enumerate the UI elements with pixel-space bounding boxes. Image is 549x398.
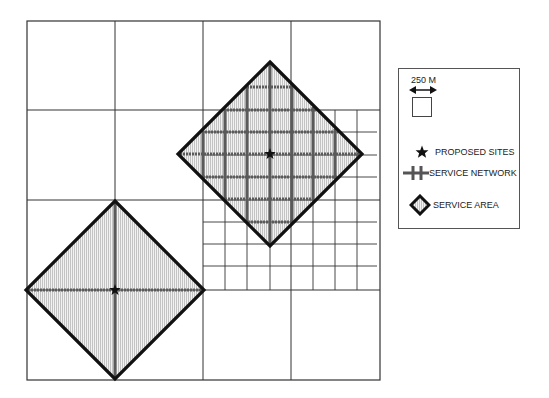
scale-label: 250 M [411,75,436,85]
scale-square [412,97,432,117]
legend-label: PROPOSED SITES [435,147,515,157]
network-line-icon [403,163,429,183]
double-arrow-icon [409,85,437,95]
legend: 250 M PROPOSED SITES SERVICE NETWORK SER… [398,68,520,229]
legend-item-service-network: SERVICE NETWORK [403,163,517,183]
legend-item-proposed-sites: PROPOSED SITES [409,142,515,162]
diamond-area-icon [407,195,433,215]
legend-label: SERVICE NETWORK [429,168,517,178]
star-icon [409,142,435,162]
legend-item-service-area: SERVICE AREA [407,195,499,215]
legend-label: SERVICE AREA [433,200,499,210]
